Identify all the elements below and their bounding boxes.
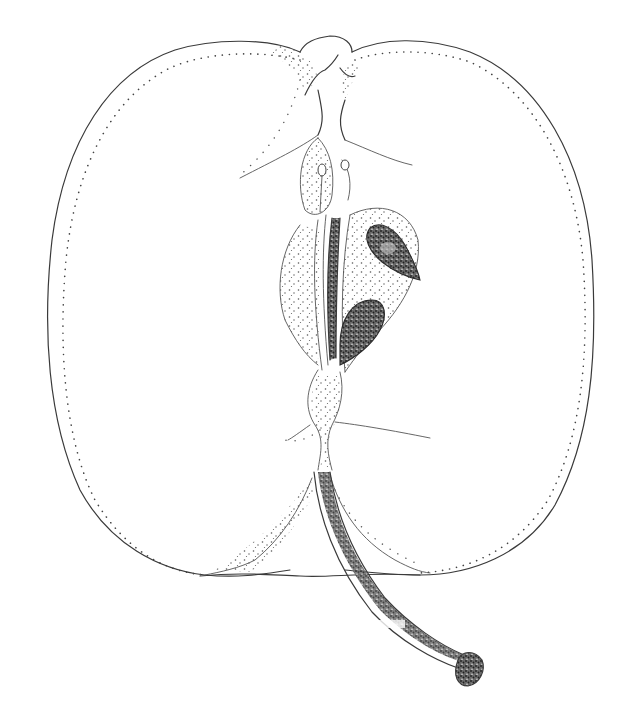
skin-outline [48, 36, 594, 576]
stem [314, 472, 483, 686]
stem-basin [205, 475, 430, 575]
scan-artifact [375, 620, 405, 628]
apple-section-illustration [0, 0, 625, 720]
core-neck [288, 370, 430, 470]
seed-highlight [380, 242, 396, 254]
